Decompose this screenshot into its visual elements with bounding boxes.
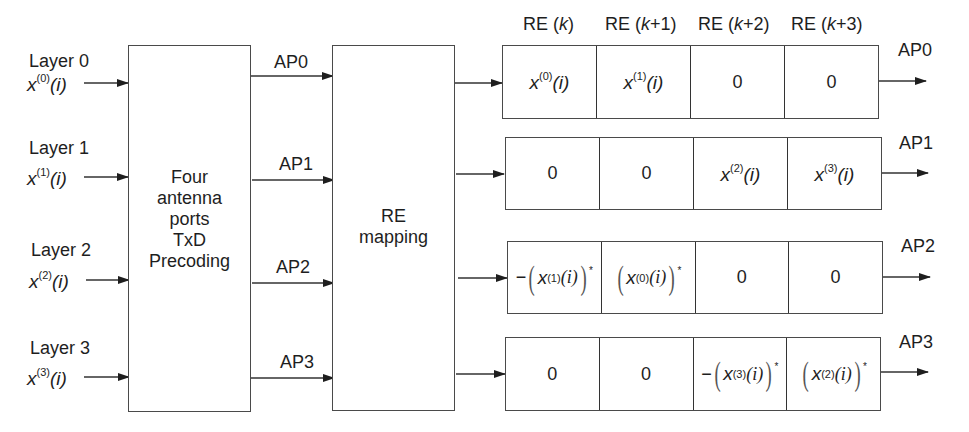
ap2-output-label: AP2: [901, 236, 935, 256]
ap1-link-label: AP1: [279, 154, 313, 174]
re-header-k: RE (k): [523, 14, 574, 35]
layer-1-symbol: x(1)(i): [27, 166, 67, 190]
re-cell: x(2)(i): [693, 138, 787, 209]
re-cell: (x(0)(i))*: [601, 242, 695, 313]
layer-0-label: Layer 0: [29, 51, 89, 71]
layer-2-symbol: x(2)(i): [29, 269, 69, 293]
re-cell: 0: [788, 242, 882, 313]
re-cell: x(0)(i): [503, 46, 596, 118]
re-cell: x(1)(i): [596, 46, 690, 118]
ap0-link-label: AP0: [274, 52, 308, 72]
ap3-link-label: AP3: [280, 352, 314, 372]
re-row-ap2: −(x(1)(i))* (x(0)(i))* 0 0: [507, 241, 883, 314]
ap2-link-label: AP2: [276, 257, 310, 277]
re-row-ap1: 0 0 x(2)(i) x(3)(i): [505, 137, 882, 210]
layer-3-label: Layer 3: [30, 338, 90, 358]
layer-1-label: Layer 1: [29, 138, 89, 158]
re-row-ap0: x(0)(i) x(1)(i) 0 0: [502, 45, 879, 119]
re-header-k3: RE (k+3): [791, 14, 863, 35]
re-cell: −(x(1)(i))*: [508, 242, 601, 313]
ap3-output-label: AP3: [899, 332, 933, 352]
re-cell: 0: [506, 138, 599, 209]
re-header-k1: RE (k+1): [605, 14, 677, 35]
re-cell: −(x(3)(i))*: [693, 338, 787, 410]
re-mapping-block-label: RE mapping: [332, 206, 455, 248]
re-header-k2: RE (k+2): [698, 14, 770, 35]
re-cell: 0: [784, 46, 878, 118]
layer-3-symbol: x(3)(i): [27, 366, 67, 390]
precoding-block-label: Four antenna ports TxD Precoding: [128, 167, 251, 272]
ap1-output-label: AP1: [899, 133, 933, 153]
re-cell: 0: [695, 242, 789, 313]
re-cell: 0: [690, 46, 784, 118]
layer-0-symbol: x(0)(i): [27, 72, 67, 96]
re-cell: 0: [599, 138, 693, 209]
re-cell: (x(2)(i))*: [786, 338, 880, 410]
ap0-output-label: AP0: [898, 40, 932, 60]
re-cell: 0: [506, 338, 599, 410]
re-row-ap3: 0 0 −(x(3)(i))* (x(2)(i))*: [505, 337, 881, 411]
layer-2-label: Layer 2: [31, 240, 91, 260]
re-cell: 0: [599, 338, 693, 410]
re-cell: x(3)(i): [787, 138, 881, 209]
